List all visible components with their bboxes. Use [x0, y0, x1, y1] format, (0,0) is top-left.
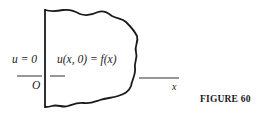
- boundary-condition-label: u = 0: [12, 54, 37, 66]
- figure-caption: FIGURE 60: [200, 95, 251, 105]
- origin-label: O: [32, 80, 40, 92]
- x-axis-label: x: [172, 82, 176, 92]
- figure-60-diagram: u = 0 u(x, 0) = f(x) O x FIGURE 60: [0, 0, 267, 118]
- initial-condition-label: u(x, 0) = f(x): [57, 54, 116, 66]
